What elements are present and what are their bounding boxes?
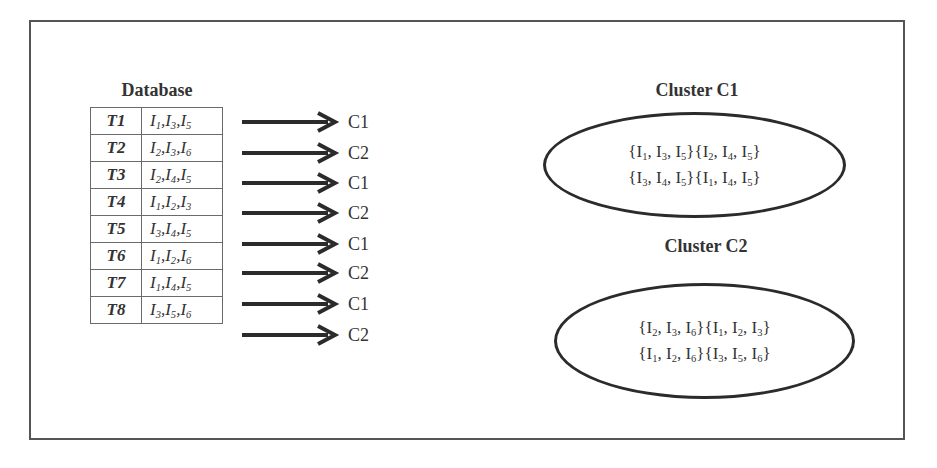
transaction-items: I3,I5,I6 (142, 297, 223, 324)
arrow-row: C1 (240, 110, 369, 134)
transaction-items: I2,I3,I6 (142, 135, 223, 162)
table-row: T4I1,I2,I3 (91, 189, 223, 216)
cluster-label: C1 (348, 110, 369, 134)
table-row: T1I1,I3,I5 (91, 108, 223, 135)
itemset-line: {I3, I4, I5}{I1, I4, I5} (628, 165, 760, 191)
arrow-row: C1 (240, 292, 369, 316)
itemset-line: {I2, I3, I6}{I1, I2, I3} (638, 315, 770, 341)
transaction-items: I2,I4,I5 (142, 162, 223, 189)
table-row: T3I2,I4,I5 (91, 162, 223, 189)
transaction-items: I1,I3,I5 (142, 108, 223, 135)
table-row: T7I1,I4,I5 (91, 270, 223, 297)
right-arrow-icon (240, 141, 340, 165)
right-arrow-icon (240, 201, 340, 225)
cluster-c2-ellipse: {I2, I3, I6}{I1, I2, I3}{I1, I2, I6}{I3,… (554, 283, 855, 399)
table-row: T2I2,I3,I6 (91, 135, 223, 162)
right-arrow-icon (240, 232, 340, 256)
right-arrow-icon (240, 110, 340, 134)
arrow-row: C2 (240, 201, 369, 225)
arrow-row: C1 (240, 232, 369, 256)
transaction-id: T3 (91, 162, 142, 189)
transaction-items: I1,I4,I5 (142, 270, 223, 297)
arrow-row: C2 (240, 323, 369, 347)
arrow-row: C2 (240, 261, 369, 285)
cluster-label: C2 (348, 323, 369, 347)
cluster-c1-ellipse: {I1, I3, I5}{I2, I4, I5}{I3, I4, I5}{I1,… (543, 112, 846, 218)
cluster-c1-title: Cluster C1 (577, 80, 817, 101)
transaction-id: T6 (91, 243, 142, 270)
cluster-label: C1 (348, 292, 369, 316)
arrow-row: C2 (240, 141, 369, 165)
cluster-label: C2 (348, 201, 369, 225)
transaction-id: T7 (91, 270, 142, 297)
cluster-label: C1 (348, 232, 369, 256)
arrow-row: C1 (240, 171, 369, 195)
right-arrow-icon (240, 292, 340, 316)
table-row: T8I3,I5,I6 (91, 297, 223, 324)
transaction-items: I1,I2,I6 (142, 243, 223, 270)
cluster-label: C2 (348, 261, 369, 285)
database-title: Database (88, 80, 226, 101)
cluster-label: C1 (348, 171, 369, 195)
transaction-id: T5 (91, 216, 142, 243)
transaction-items: I1,I2,I3 (142, 189, 223, 216)
transaction-items: I3,I4,I5 (142, 216, 223, 243)
itemset-line: {I1, I2, I6}{I3, I5, I6} (638, 341, 770, 367)
cluster-label: C2 (348, 141, 369, 165)
table-row: T6I1,I2,I6 (91, 243, 223, 270)
transaction-id: T1 (91, 108, 142, 135)
transaction-id: T2 (91, 135, 142, 162)
right-arrow-icon (240, 261, 340, 285)
right-arrow-icon (240, 323, 340, 347)
database-table: T1I1,I3,I5T2I2,I3,I6T3I2,I4,I5T4I1,I2,I3… (90, 107, 223, 324)
transaction-id: T8 (91, 297, 142, 324)
right-arrow-icon (240, 171, 340, 195)
itemset-line: {I1, I3, I5}{I2, I4, I5} (628, 139, 760, 165)
transaction-id: T4 (91, 189, 142, 216)
table-row: T5I3,I4,I5 (91, 216, 223, 243)
cluster-c2-title: Cluster C2 (586, 236, 826, 257)
